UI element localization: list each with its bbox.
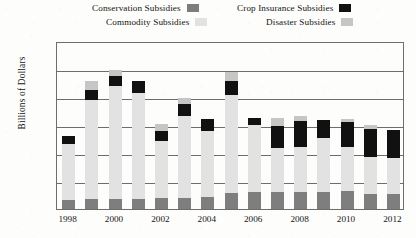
bar-2008 <box>294 41 307 209</box>
bar-segment-commodity-2000 <box>109 86 122 199</box>
bar-segment-crop-insurance-2008 <box>294 121 307 148</box>
bar-segment-crop-insurance-2001 <box>132 81 145 93</box>
bar-2002 <box>155 41 168 209</box>
bar-segment-disaster-1999 <box>85 81 98 90</box>
legend-label-disaster-subsidies: Disaster Subsidies <box>266 17 335 27</box>
plot-area <box>56 42 404 210</box>
bar-2012 <box>387 41 400 209</box>
bar-segment-crop-insurance-2009 <box>317 120 330 138</box>
legend-swatch-conservation-subsidies <box>187 4 199 12</box>
bar-segment-commodity-1999 <box>85 100 98 200</box>
bar-segment-crop-insurance-1999 <box>85 90 98 100</box>
bar-segment-commodity-2005 <box>225 95 238 194</box>
bar-segment-conservation-1998 <box>62 200 75 209</box>
legend-item-disaster-subsidies: Disaster Subsidies <box>266 17 353 27</box>
bar-segment-conservation-2001 <box>132 199 145 209</box>
bar-segment-commodity-2008 <box>294 147 307 192</box>
bar-segment-commodity-2006 <box>248 125 261 192</box>
bar-segment-disaster-2010 <box>341 119 354 122</box>
bar-segment-commodity-2011 <box>364 157 377 195</box>
bar-segment-conservation-2004 <box>201 197 214 209</box>
legend-item-conservation-subsidies: Conservation Subsidies <box>92 3 199 13</box>
bar-1999 <box>85 41 98 209</box>
y-axis-title: Billions of Dollars <box>17 33 27 153</box>
bar-segment-disaster-2003 <box>178 98 191 104</box>
legend-swatch-commodity-subsidies <box>195 18 207 26</box>
bar-segment-crop-insurance-2002 <box>155 131 168 141</box>
bar-segment-conservation-2002 <box>155 198 168 209</box>
bar-2011 <box>364 41 377 209</box>
bar-segment-conservation-2010 <box>341 191 354 209</box>
bar-segment-crop-insurance-1998 <box>62 136 75 144</box>
chart-page: Conservation Subsidies Commodity Subsidi… <box>0 0 416 238</box>
bar-2007 <box>271 41 284 209</box>
bar-segment-crop-insurance-2010 <box>341 122 354 147</box>
bar-segment-crop-insurance-2000 <box>109 76 122 87</box>
bar-segment-crop-insurance-2012 <box>387 130 400 158</box>
bar-segment-crop-insurance-2006 <box>248 118 261 125</box>
bar-2001 <box>132 41 145 209</box>
bar-segment-commodity-2012 <box>387 158 400 194</box>
bar-segment-commodity-2009 <box>317 138 330 191</box>
bar-segment-conservation-2012 <box>387 194 400 209</box>
bar-segment-conservation-2011 <box>364 194 377 209</box>
bar-segment-commodity-2007 <box>271 148 284 192</box>
x-tick-label-2006: 2006 <box>233 214 273 224</box>
x-tick-label-1998: 1998 <box>48 214 88 224</box>
bar-segment-conservation-2007 <box>271 192 284 209</box>
legend-item-commodity-subsidies: Commodity Subsidies <box>106 17 207 27</box>
bar-segment-crop-insurance-2007 <box>271 126 284 148</box>
bar-segment-crop-insurance-2004 <box>201 119 214 131</box>
chart-legend: Conservation Subsidies Commodity Subsidi… <box>0 2 416 32</box>
x-tick-label-2004: 2004 <box>187 214 227 224</box>
bar-segment-conservation-1999 <box>85 199 98 209</box>
bar-segment-commodity-2003 <box>178 116 191 198</box>
bar-2010 <box>341 41 354 209</box>
bar-segment-conservation-2000 <box>109 199 122 209</box>
bar-segment-commodity-2004 <box>201 131 214 197</box>
x-tick-label-2002: 2002 <box>140 214 180 224</box>
bar-segment-disaster-2005 <box>225 72 238 81</box>
legend-label-commodity-subsidies: Commodity Subsidies <box>106 17 189 27</box>
bar-2003 <box>178 41 191 209</box>
bar-segment-conservation-2006 <box>248 192 261 209</box>
bar-segment-disaster-2000 <box>109 70 122 76</box>
bar-segment-disaster-2008 <box>294 116 307 121</box>
x-tick-label-2012: 2012 <box>372 214 412 224</box>
bar-segment-disaster-2002 <box>155 124 168 131</box>
bar-2005 <box>225 41 238 209</box>
x-tick-label-2008: 2008 <box>280 214 320 224</box>
legend-item-crop-insurance-subsidies: Crop Insurance Subsidies <box>237 3 351 13</box>
x-tick-label-2010: 2010 <box>326 214 366 224</box>
bar-1998 <box>62 41 75 209</box>
bar-segment-commodity-2001 <box>132 93 145 199</box>
bar-segment-conservation-2005 <box>225 193 238 209</box>
bar-2000 <box>109 41 122 209</box>
bar-segment-commodity-1998 <box>62 144 75 200</box>
bar-segment-conservation-2009 <box>317 192 330 209</box>
bar-segment-conservation-2008 <box>294 192 307 209</box>
bar-segment-conservation-2003 <box>178 198 191 209</box>
bar-2006 <box>248 41 261 209</box>
legend-swatch-crop-insurance-subsidies <box>339 4 351 12</box>
bar-segment-commodity-2002 <box>155 141 168 199</box>
bar-segment-crop-insurance-2011 <box>364 129 377 157</box>
bar-segment-disaster-2007 <box>271 118 284 126</box>
legend-label-conservation-subsidies: Conservation Subsidies <box>92 3 181 13</box>
x-tick-label-2000: 2000 <box>94 214 134 224</box>
bar-segment-disaster-2011 <box>364 125 377 129</box>
bar-segment-crop-insurance-2005 <box>225 81 238 94</box>
bar-2009 <box>317 41 330 209</box>
legend-label-crop-insurance-subsidies: Crop Insurance Subsidies <box>237 3 333 13</box>
bar-segment-crop-insurance-2003 <box>178 104 191 116</box>
bar-2004 <box>201 41 214 209</box>
legend-swatch-disaster-subsidies <box>341 18 353 26</box>
bar-segment-commodity-2010 <box>341 147 354 191</box>
